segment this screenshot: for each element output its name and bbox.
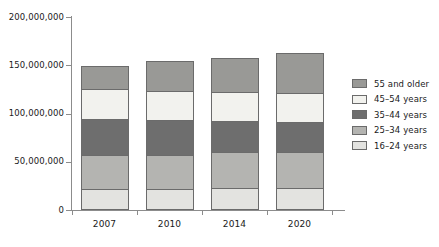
y-tick-label-text: 0: [58, 205, 64, 215]
bar-segment[interactable]: [81, 189, 129, 210]
bar-2010[interactable]: [146, 17, 194, 210]
legend-label: 35–44 years: [374, 110, 427, 120]
bar-segment[interactable]: [81, 119, 129, 155]
bar-segment[interactable]: [211, 152, 259, 188]
y-tick-label: 150,000,000: [0, 60, 64, 71]
bar-segment[interactable]: [211, 92, 259, 121]
y-tick-label: 200,000,000: [0, 12, 64, 23]
legend-label: 25–34 years: [374, 125, 427, 135]
legend-swatch-icon: [352, 95, 367, 104]
x-tick-mark: [202, 210, 203, 215]
x-tick-mark: [267, 210, 268, 215]
bar-segment[interactable]: [211, 121, 259, 152]
bar-segment[interactable]: [276, 93, 324, 122]
bar-segment[interactable]: [146, 91, 194, 120]
y-tick-label-text: 100,000,000: [9, 108, 64, 118]
stacked-bar-chart: 050,000,000100,000,000150,000,000200,000…: [0, 0, 439, 247]
legend-label: 16–24 years: [374, 141, 427, 151]
x-tick-mark: [72, 210, 73, 215]
x-tick-label-2010: 2010: [137, 219, 202, 229]
bar-segment[interactable]: [211, 58, 259, 92]
bar-2007[interactable]: [81, 17, 129, 210]
legend-item[interactable]: 25–34 years: [352, 123, 439, 139]
legend-swatch-icon: [352, 79, 367, 88]
y-tick-label: 100,000,000: [0, 108, 64, 119]
bar-2014[interactable]: [211, 17, 259, 210]
bar-segment[interactable]: [211, 188, 259, 210]
y-tick-label: 50,000,000: [0, 156, 64, 167]
bar-segment[interactable]: [146, 120, 194, 155]
bar-2020[interactable]: [276, 17, 324, 210]
bar-segment[interactable]: [276, 152, 324, 188]
chart-legend: 55 and older45–54 years35–44 years25–34 …: [352, 76, 439, 154]
legend-swatch-icon: [352, 126, 367, 135]
legend-label: 45–54 years: [374, 94, 427, 104]
legend-item[interactable]: 45–54 years: [352, 92, 439, 108]
bar-segment[interactable]: [276, 122, 324, 152]
bar-segment[interactable]: [276, 188, 324, 210]
bar-segment[interactable]: [146, 61, 194, 91]
legend-item[interactable]: 55 and older: [352, 76, 439, 92]
bar-segment[interactable]: [146, 189, 194, 210]
legend-swatch-icon: [352, 141, 367, 150]
legend-label: 55 and older: [374, 79, 429, 89]
y-tick-label-text: 150,000,000: [9, 60, 64, 70]
bar-segment[interactable]: [276, 53, 324, 93]
y-tick-label-text: 200,000,000: [9, 12, 64, 22]
bar-segment[interactable]: [81, 89, 129, 119]
x-tick-label-2020: 2020: [267, 219, 332, 229]
x-tick-mark: [137, 210, 138, 215]
x-tick-label-2007: 2007: [72, 219, 137, 229]
bar-segment[interactable]: [146, 155, 194, 189]
y-tick-label: 0: [0, 205, 64, 216]
x-tick-mark: [332, 210, 333, 215]
legend-swatch-icon: [352, 110, 367, 119]
plot-area: [72, 17, 332, 210]
legend-item[interactable]: 35–44 years: [352, 107, 439, 123]
x-axis-line: [71, 210, 345, 211]
x-tick-label-2014: 2014: [202, 219, 267, 229]
legend-item[interactable]: 16–24 years: [352, 138, 439, 154]
bar-segment[interactable]: [81, 155, 129, 189]
y-tick-label-text: 50,000,000: [14, 156, 64, 166]
bar-segment[interactable]: [81, 66, 129, 89]
